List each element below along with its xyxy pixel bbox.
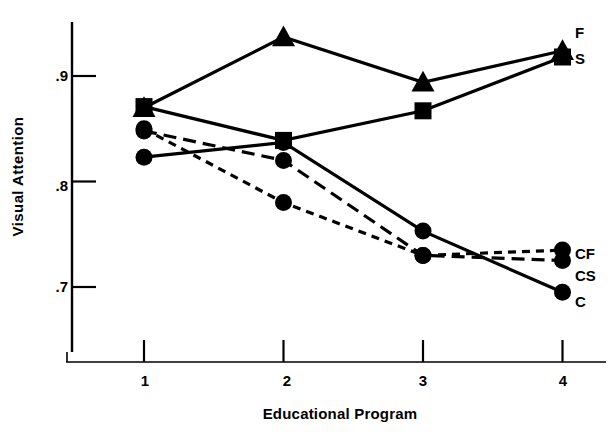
series-label-f: F [575, 24, 584, 41]
y-tick-label-2: .7 [38, 278, 68, 295]
x-tick-label-3: 4 [548, 372, 578, 389]
data-point-cf-4 [554, 242, 571, 259]
series-label-s: S [575, 50, 585, 67]
data-point-c-1 [136, 149, 153, 166]
x-tick-label-1: 2 [272, 372, 302, 389]
series-line-c [144, 143, 563, 293]
data-point-c-2 [275, 134, 292, 151]
x-tick-marks [144, 340, 563, 362]
data-point-cf-1 [136, 120, 153, 137]
data-point-s-3 [415, 102, 432, 119]
y-axis-title: Visual Attention [9, 102, 26, 252]
data-point-s-4 [554, 49, 571, 66]
series-lines-group [144, 37, 563, 292]
series-line-cf [144, 129, 563, 256]
y-tick-label-1: .8 [38, 177, 68, 194]
y-tick-marks [72, 76, 96, 287]
data-point-s-1 [136, 98, 153, 115]
plot-area [0, 0, 611, 436]
x-axis-title: Educational Program [180, 405, 500, 422]
series-line-f [144, 37, 563, 108]
data-point-c-3 [415, 223, 432, 240]
data-point-c-4 [554, 284, 571, 301]
data-point-cf-2 [275, 194, 292, 211]
series-line-s [144, 57, 563, 140]
data-point-cf-3 [415, 247, 432, 264]
series-label-cs: CS [575, 267, 596, 284]
x-tick-label-2: 3 [408, 372, 438, 389]
series-markers-group [133, 26, 575, 301]
data-point-f-2 [272, 26, 295, 47]
chart-figure: Visual Attention Educational Program .9 … [0, 0, 611, 436]
x-tick-label-0: 1 [130, 372, 160, 389]
series-label-c: C [575, 293, 586, 310]
y-tick-label-0: .9 [38, 67, 68, 84]
series-label-cf: CF [575, 245, 595, 262]
data-point-cs-2 [275, 152, 292, 169]
